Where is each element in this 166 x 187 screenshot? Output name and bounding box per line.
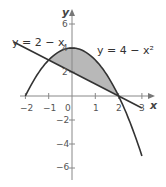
- chart: −2 −1 0 1 2 3 6 4 2 −2 −4 −6 y x y = 2 −…: [0, 0, 166, 187]
- y-axis-label: y: [62, 6, 70, 19]
- xtick-label: 2: [116, 103, 122, 113]
- ytick-label: −6: [56, 162, 70, 172]
- xtick-label: 3: [139, 103, 145, 113]
- ytick-label: −2: [56, 115, 69, 125]
- xtick-label: 1: [93, 103, 99, 113]
- xtick-label: −2: [20, 103, 33, 113]
- line-equation-label: y = 2 − x: [12, 36, 65, 49]
- x-axis-label: x: [149, 99, 158, 112]
- ytick-label: −4: [56, 139, 70, 149]
- parabola-equation-label: y = 4 − x²: [97, 44, 154, 57]
- y-axis: [69, 9, 75, 180]
- x-axis: [20, 93, 155, 99]
- ytick-label: 6: [62, 19, 68, 29]
- origin-label: 0: [65, 103, 71, 113]
- xtick-label: −1: [43, 103, 56, 113]
- ytick-label: 2: [62, 67, 68, 77]
